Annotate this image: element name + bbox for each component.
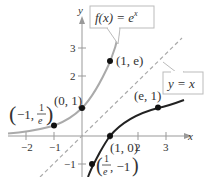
identity-label: y = x — [166, 76, 195, 91]
svg-text:e: e — [103, 166, 108, 177]
point-e-1 — [155, 105, 161, 111]
label-neg1-inv-e: ( −1, 1 e ) — [9, 101, 53, 126]
svg-text:, −1: , −1 — [110, 159, 130, 174]
point-inv-e-neg1 — [89, 161, 95, 167]
label-0-1: (0, 1) — [54, 93, 82, 108]
tick-x-neg1: −1 — [49, 141, 61, 153]
svg-text:(: ( — [9, 101, 16, 126]
tick-y-2: 2 — [70, 70, 76, 82]
y-axis-label: y — [77, 4, 83, 16]
label-1-0: (1, 0) — [110, 140, 138, 155]
svg-text:): ) — [46, 101, 53, 126]
exp-callout: f(x) = ex — [90, 6, 154, 44]
y-axis-arrow-icon — [79, 16, 85, 24]
label-e-1: (e, 1) — [134, 88, 161, 103]
exp-label: f(x) = ex — [95, 9, 138, 25]
label-inv-e-neg1: ( 1 e , −1 ) — [96, 153, 139, 177]
svg-text:1: 1 — [39, 102, 44, 113]
svg-text:−1,: −1, — [17, 107, 34, 122]
svg-text:): ) — [132, 154, 139, 177]
point-1-e — [107, 58, 113, 64]
svg-text:(: ( — [96, 154, 103, 177]
tick-y-neg1: −1 — [64, 158, 76, 170]
svg-text:1: 1 — [104, 153, 109, 164]
label-1-e: (1, e) — [116, 53, 143, 68]
tick-y-3: 3 — [70, 42, 76, 54]
identity-callout: y = x — [163, 62, 203, 94]
tick-x-neg2: −2 — [21, 141, 33, 153]
tick-x-3: 3 — [163, 141, 169, 153]
point-1-0 — [107, 133, 113, 139]
graph-canvas: −2 −1 2 3 3 2 −1 x y f(x) = ex y = x — [0, 0, 206, 177]
x-axis-label: x — [187, 130, 193, 142]
svg-text:e: e — [38, 115, 43, 126]
